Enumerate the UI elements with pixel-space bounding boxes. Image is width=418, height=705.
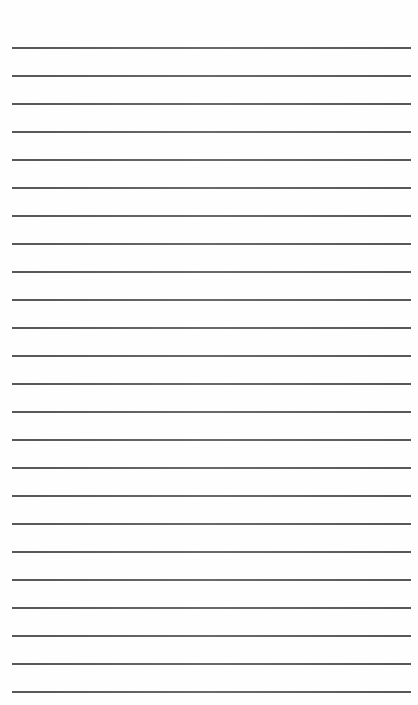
ruled-line xyxy=(12,243,411,245)
ruled-line xyxy=(12,299,411,301)
ruled-line xyxy=(12,355,411,357)
ruled-line xyxy=(12,411,411,413)
ruled-line xyxy=(12,551,411,553)
ruled-line xyxy=(12,75,411,77)
ruled-line xyxy=(12,579,411,581)
ruled-line xyxy=(12,103,411,105)
ruled-line xyxy=(12,439,411,441)
ruled-line xyxy=(12,495,411,497)
ruled-line xyxy=(12,187,411,189)
ruled-line xyxy=(12,663,411,665)
ruled-line xyxy=(12,159,411,161)
ruled-line xyxy=(12,47,411,49)
ruled-line xyxy=(12,523,411,525)
ruled-line xyxy=(12,271,411,273)
lined-paper-page xyxy=(0,0,418,705)
ruled-line xyxy=(12,215,411,217)
ruled-line xyxy=(12,383,411,385)
ruled-line xyxy=(12,131,411,133)
ruled-line xyxy=(12,635,411,637)
ruled-line xyxy=(12,327,411,329)
ruled-line xyxy=(12,467,411,469)
ruled-line xyxy=(12,607,411,609)
ruled-line xyxy=(12,691,411,693)
